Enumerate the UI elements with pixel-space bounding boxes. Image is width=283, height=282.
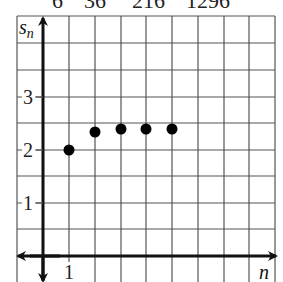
- point-n1: [64, 145, 75, 156]
- point-n4: [141, 124, 152, 135]
- grid: [17, 16, 275, 282]
- x-tick-1: 1: [64, 261, 74, 282]
- x-axis-label: n: [259, 261, 269, 282]
- point-n2: [90, 127, 101, 138]
- sequence-plot: sn 3 2 1 1 n: [0, 0, 283, 282]
- y-tick-1: 1: [23, 192, 33, 214]
- point-n3: [116, 124, 127, 135]
- y-tick-2: 2: [23, 139, 33, 161]
- point-n5: [167, 124, 178, 135]
- y-tick-3: 3: [23, 86, 33, 108]
